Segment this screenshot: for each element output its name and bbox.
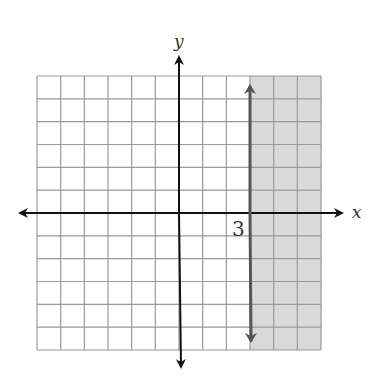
coordinate-plane: y x 3 — [0, 0, 373, 382]
boundary-line — [250, 213, 251, 341]
boundary-value-label: 3 — [232, 217, 245, 241]
x-axis-label: x — [352, 202, 362, 222]
y-axis-label: y — [173, 31, 184, 51]
